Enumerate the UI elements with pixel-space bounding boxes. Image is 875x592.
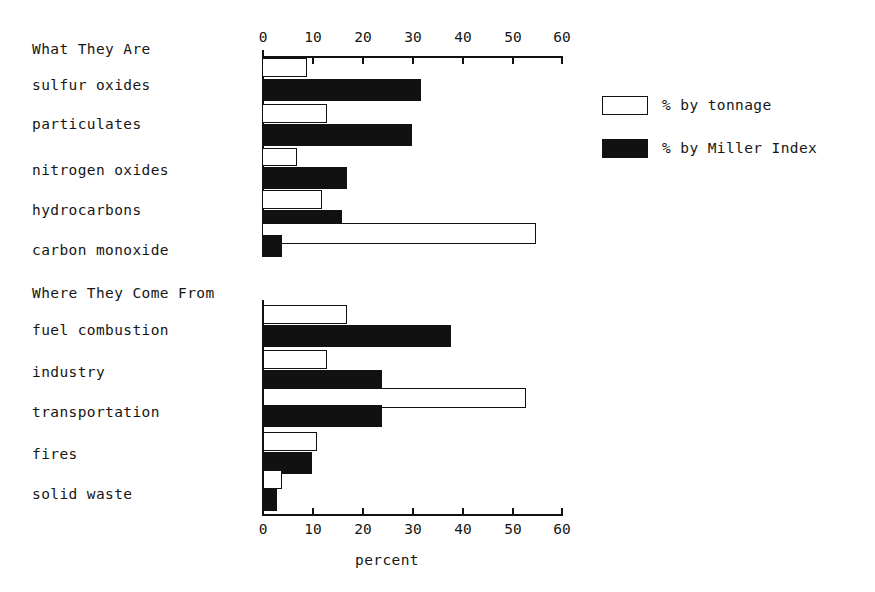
top-tick-40 <box>462 56 464 64</box>
panel-bottom-title: Where They Come From <box>32 286 215 301</box>
bottom-tick-30 <box>412 508 414 516</box>
category-label-hydrocarbons: hydrocarbons <box>32 203 142 218</box>
bar-tonnage-fires <box>262 432 317 451</box>
bottom-tick-20 <box>362 508 364 516</box>
legend-swatch-tonnage-icon <box>602 96 648 115</box>
bar-tonnage-hydrocarbons <box>262 190 322 209</box>
bottom-tick-60 <box>561 508 563 516</box>
bar-miller-sulfur-oxides <box>262 79 421 101</box>
top-tick-50 <box>512 56 514 64</box>
bottom-tick-label-60: 60 <box>553 522 570 537</box>
top-tick-30 <box>412 56 414 64</box>
top-tick-label-30: 30 <box>404 30 421 45</box>
bottom-tick-50 <box>512 508 514 516</box>
top-tick-label-60: 60 <box>553 30 570 45</box>
category-label-industry: industry <box>32 365 105 380</box>
bar-miller-solid-waste <box>262 489 277 511</box>
legend-item-miller: % by Miller Index <box>602 139 817 158</box>
bottom-tick-label-10: 10 <box>304 522 321 537</box>
panel-top-title: What They Are <box>32 42 151 57</box>
top-tick-label-10: 10 <box>304 30 321 45</box>
category-label-fuel-combustion: fuel combustion <box>32 323 169 338</box>
bottom-tick-label-40: 40 <box>454 522 471 537</box>
category-label-nitrogen-oxides: nitrogen oxides <box>32 163 169 178</box>
x-axis-title: percent <box>355 553 419 568</box>
bottom-tick-40 <box>462 508 464 516</box>
legend-swatch-miller-icon <box>602 139 648 158</box>
bar-tonnage-particulates <box>262 104 327 123</box>
bar-miller-particulates <box>262 124 412 146</box>
category-label-particulates: particulates <box>32 117 142 132</box>
bar-miller-fuel-combustion <box>262 325 451 347</box>
category-label-carbon-monoxide: carbon monoxide <box>32 243 169 258</box>
bottom-tick-0 <box>262 508 264 516</box>
pollution-bar-chart: What They Are sulfur oxides particulates… <box>0 0 875 592</box>
legend-label-tonnage: % by tonnage <box>662 98 772 113</box>
bottom-tick-label-20: 20 <box>354 522 371 537</box>
category-label-solid-waste: solid waste <box>32 487 132 502</box>
top-tick-label-20: 20 <box>354 30 371 45</box>
category-label-transportation: transportation <box>32 405 160 420</box>
top-tick-label-0: 0 <box>259 30 268 45</box>
bottom-tick-label-30: 30 <box>404 522 421 537</box>
category-label-fires: fires <box>32 447 78 462</box>
bar-miller-transportation <box>262 405 382 427</box>
bar-tonnage-solid-waste <box>262 470 282 489</box>
top-tick-label-50: 50 <box>504 30 521 45</box>
bar-tonnage-nitrogen-oxides <box>262 148 297 166</box>
bar-miller-nitrogen-oxides <box>262 167 347 189</box>
bar-tonnage-carbon-monoxide <box>262 223 536 244</box>
top-tick-0 <box>262 50 264 58</box>
bottom-tick-10 <box>312 508 314 516</box>
bottom-tick-label-50: 50 <box>504 522 521 537</box>
bar-tonnage-industry <box>262 350 327 369</box>
bar-tonnage-fuel-combustion <box>262 305 347 324</box>
bottom-axis-baseline <box>262 300 264 515</box>
top-tick-10 <box>312 56 314 64</box>
top-tick-label-40: 40 <box>454 30 471 45</box>
bar-miller-carbon-monoxide <box>262 235 282 257</box>
legend-item-tonnage: % by tonnage <box>602 96 772 115</box>
top-tick-60 <box>561 56 563 64</box>
bar-tonnage-sulfur-oxides <box>262 58 307 77</box>
category-label-sulfur-oxides: sulfur oxides <box>32 78 151 93</box>
legend-label-miller: % by Miller Index <box>662 141 817 156</box>
top-tick-20 <box>362 56 364 64</box>
bottom-tick-label-0: 0 <box>259 522 268 537</box>
